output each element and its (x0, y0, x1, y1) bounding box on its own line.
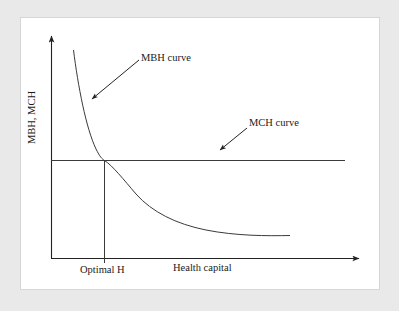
y-axis-title-text: MBH, MCH (26, 78, 37, 158)
mch-curve-label: MCH curve (249, 117, 299, 128)
optimal-h-tick-label: Optimal H (80, 264, 125, 275)
x-axis-title: Health capital (173, 262, 232, 273)
mbh-curve-label: MBH curve (141, 52, 191, 63)
figure-root: MBH, MCH Health capital Optimal H MBH cu… (0, 0, 399, 311)
y-axis-title: MBH, MCH (26, 111, 37, 125)
chart-panel (20, 17, 380, 290)
